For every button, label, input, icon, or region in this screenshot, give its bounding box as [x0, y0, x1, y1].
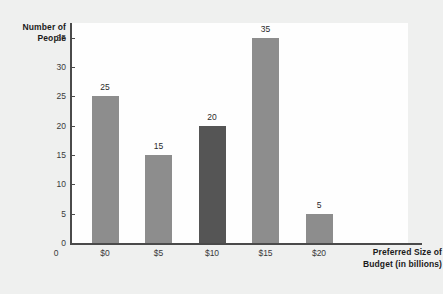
bar-value-label: 15 — [139, 141, 179, 151]
x-axis-title: Preferred Size of Budget (in billions) — [330, 247, 442, 270]
bar — [199, 126, 226, 243]
x-axis-line — [70, 243, 422, 245]
bar-value-label: 25 — [85, 82, 125, 92]
x-axis-title-line1: Preferred Size of — [330, 247, 442, 259]
x-axis-title-line2: Budget (in billions) — [330, 259, 442, 271]
x-tick-label: $20 — [299, 248, 339, 258]
bar-chart-figure: Number of People Preferred Size of Budge… — [0, 0, 443, 294]
bars-layer: 251520355 — [0, 0, 443, 243]
x-tick-label: $10 — [192, 248, 232, 258]
bar — [92, 96, 119, 243]
bar-value-label: 5 — [299, 200, 339, 210]
bar-value-label: 35 — [246, 24, 286, 34]
x-tick-label: $0 — [85, 248, 125, 258]
x-tick-label: $5 — [139, 248, 179, 258]
bar — [252, 38, 279, 243]
bar — [306, 214, 333, 243]
origin-label: 0 — [49, 248, 63, 258]
bar-value-label: 20 — [192, 112, 232, 122]
x-tick-label: $15 — [246, 248, 286, 258]
bar — [145, 155, 172, 243]
